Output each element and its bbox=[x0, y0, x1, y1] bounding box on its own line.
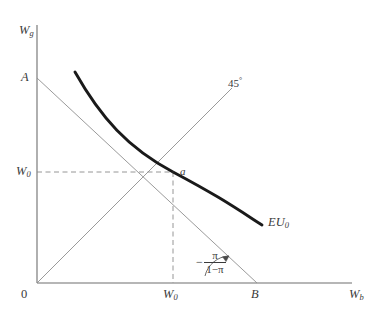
budget-slope-annotation: − π 1−π bbox=[196, 249, 226, 276]
certainty-line-label: 45° bbox=[228, 77, 242, 89]
wealth-w0-x-subscript: 0 bbox=[174, 292, 178, 302]
economics-diagram bbox=[0, 0, 382, 322]
wealth-w0-y-label: W0 bbox=[16, 165, 31, 179]
certainty-line-label-value: 45 bbox=[228, 77, 239, 89]
tangency-point-marker bbox=[172, 171, 174, 173]
x-axis-label-subscript: b bbox=[360, 292, 364, 302]
slope-denominator: 1−π bbox=[204, 263, 225, 276]
budget-intercept-a-label: A bbox=[21, 71, 29, 84]
y-axis-label: Wg bbox=[19, 24, 34, 38]
x-axis-label-main: W bbox=[349, 287, 359, 301]
y-axis-label-main: W bbox=[19, 23, 29, 37]
wealth-w0-y-subscript: 0 bbox=[27, 169, 31, 179]
indifference-curve-eu0 bbox=[75, 72, 262, 225]
y-axis-label-subscript: g bbox=[30, 28, 34, 38]
x-axis-label: Wb bbox=[349, 288, 364, 302]
wealth-w0-y-main: W bbox=[16, 164, 26, 178]
origin-label: 0 bbox=[21, 288, 27, 301]
figure-container: Wg Wb 0 A B W0 W0 a EU0 45° − π 1−π bbox=[0, 0, 382, 322]
slope-fraction: π 1−π bbox=[204, 249, 225, 276]
budget-intercept-b-label: B bbox=[251, 288, 259, 301]
indifference-curve-label: EU0 bbox=[268, 216, 289, 230]
indifference-curve-label-main: EU bbox=[268, 215, 285, 229]
wealth-w0-x-main: W bbox=[163, 287, 173, 301]
degree-symbol-icon: ° bbox=[239, 76, 242, 85]
indifference-curve-label-subscript: 0 bbox=[285, 220, 289, 230]
slope-numerator: π bbox=[210, 249, 220, 262]
slope-minus-sign: − bbox=[196, 256, 203, 268]
tangency-point-label: a bbox=[180, 166, 186, 177]
wealth-w0-x-label: W0 bbox=[163, 288, 178, 302]
